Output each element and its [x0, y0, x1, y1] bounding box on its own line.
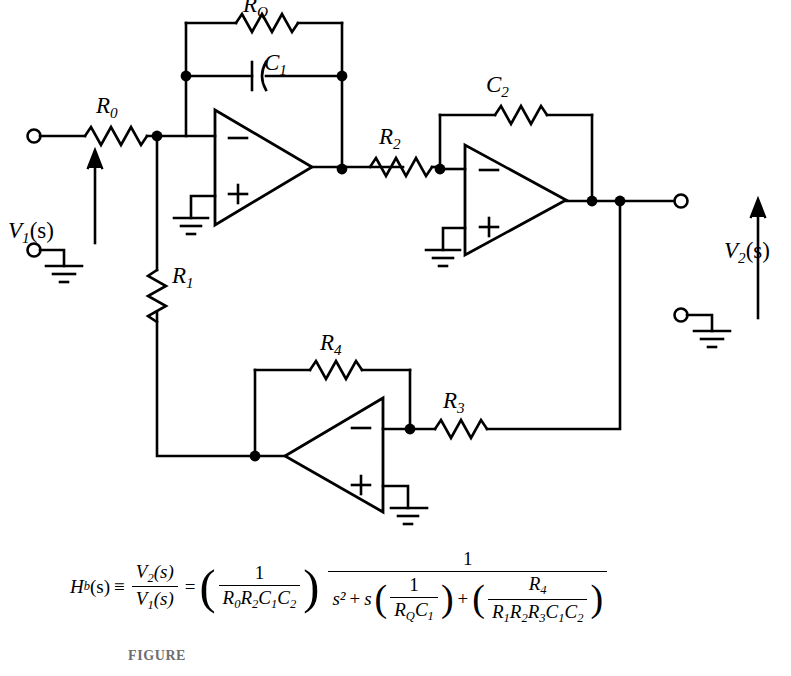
- eq-lhs-arg: (s): [90, 576, 110, 598]
- eq-main-num: 1: [459, 548, 477, 571]
- opamp-2: [465, 145, 566, 255]
- eq-den-s: s: [364, 588, 371, 610]
- eq-paren-open-gain: (: [199, 572, 215, 602]
- ground-symbol-opamp2: [426, 250, 460, 266]
- output-terminal-positive[interactable]: [675, 195, 688, 208]
- eq-paren-close-gain: ): [303, 572, 319, 602]
- eq-ratio-den: V1(s): [132, 586, 178, 613]
- ground-symbol-opamp3: [391, 508, 427, 524]
- eq-identity: ≡: [110, 576, 129, 598]
- wire-r1-to-opamp3: [157, 312, 255, 456]
- eq-den-t1-den: RQC1: [390, 597, 438, 624]
- label-RQ: RQ: [243, 0, 268, 21]
- label-V1: V1(s): [8, 218, 54, 247]
- circuit-schematic: [0, 0, 791, 545]
- label-R3: R3: [443, 388, 465, 417]
- resistor-R4: [255, 361, 410, 379]
- ground-symbol-opamp1: [174, 218, 208, 234]
- wire-opamp1-plus-gnd: [191, 196, 215, 218]
- capacitor-C2: [440, 106, 592, 124]
- eq-den-t2-den: R1R2R3C1C2: [488, 599, 588, 626]
- wire-opamp2-plus-gnd: [443, 228, 465, 250]
- opamp-1: [215, 110, 312, 225]
- eq-ratio-num: V2(s): [132, 561, 178, 587]
- eq-gain-den: R0R2C1C2: [219, 585, 301, 612]
- output-terminal-ground[interactable]: [675, 309, 688, 322]
- ground-symbol-input: [46, 266, 82, 282]
- eq-den-t2-num: R4: [525, 573, 551, 599]
- node-dot-c1-left: [181, 71, 192, 82]
- eq-den-plus-1: +: [345, 588, 364, 610]
- wire-output-gnd: [687, 315, 712, 331]
- eq-den-term-1: 1 RQC1: [390, 574, 438, 624]
- node-dot-c1-right: [337, 71, 348, 82]
- node-dot-opamp2-out: [587, 196, 598, 207]
- node-dot-inv3: [405, 424, 416, 435]
- wire-r3-to-output: [487, 201, 620, 429]
- eq-gain: 1 R0R2C1C2: [219, 562, 301, 612]
- label-C2: C2: [486, 72, 509, 101]
- opamp-3: [285, 398, 383, 512]
- eq-gain-num: 1: [251, 562, 269, 585]
- transfer-function-equation: Hb(s) ≡ V2(s) V1(s) = ( 1 R0R2C1C2 ) 1 s…: [70, 548, 610, 626]
- wire-input-gnd: [40, 250, 64, 266]
- label-R4: R4: [320, 330, 342, 359]
- label-R2: R2: [379, 124, 401, 153]
- label-R0: R0: [96, 93, 118, 122]
- eq-equals: =: [181, 576, 200, 598]
- figure-root: RQ C1 R0 R1 R2 C2 R4 R3 V1(s) V2(s) Hb(s…: [0, 0, 791, 676]
- eq-den-plus-2: +: [454, 588, 473, 610]
- figure-caption: FIGURE: [128, 648, 186, 664]
- eq-lhs-fn: H: [70, 576, 84, 598]
- eq-paren-open-t1: (: [375, 587, 388, 611]
- label-R1: R1: [172, 263, 194, 292]
- eq-paren-close-t1: ): [441, 587, 454, 611]
- ground-symbol-output: [694, 331, 730, 347]
- eq-den-s-squared: s²: [332, 588, 345, 610]
- eq-ratio: V2(s) V1(s): [132, 561, 178, 614]
- input-terminal-positive[interactable]: [28, 130, 41, 143]
- eq-den-term-2: R4 R1R2R3C1C2: [488, 573, 588, 626]
- resistor-R3: [435, 420, 487, 438]
- eq-main-fraction: 1 s² + s ( 1 RQC1 ) + ( R4 R1R2R3C1C2 ): [328, 548, 607, 626]
- eq-main-den: s² + s ( 1 RQC1 ) + ( R4 R1R2R3C1C2 ): [328, 571, 607, 626]
- resistor-R0: [85, 127, 147, 145]
- eq-paren-close-t2: ): [590, 587, 603, 611]
- voltage-arrow-V1: [88, 150, 102, 243]
- node-dot-opamp1-out: [337, 164, 348, 175]
- label-V2: V2(s): [724, 238, 770, 267]
- label-C1: C1: [264, 50, 287, 79]
- eq-den-t1-num: 1: [405, 574, 423, 597]
- eq-paren-open-t2: (: [472, 587, 485, 611]
- node-dot-opamp3-out: [250, 451, 261, 462]
- node-dot-inv2: [435, 164, 446, 175]
- wire-opamp3-plus-gnd: [383, 486, 408, 508]
